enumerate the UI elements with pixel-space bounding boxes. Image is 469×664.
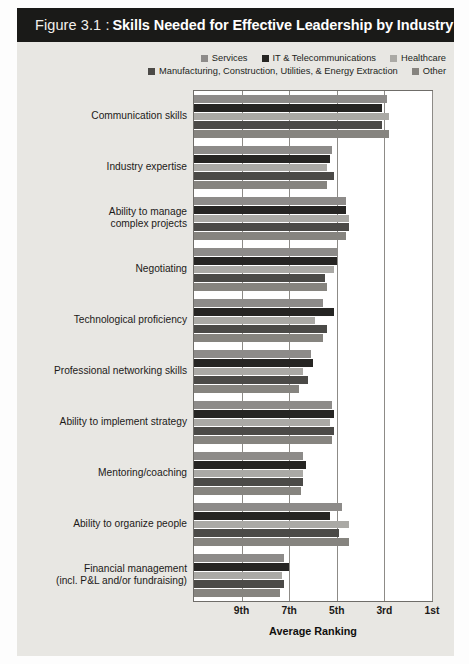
figure-page: Figure 3.1 : Skills Needed for Effective…: [0, 0, 469, 664]
bar: [194, 283, 327, 291]
gridline: [432, 91, 433, 601]
figure-title-bar: Figure 3.1 : Skills Needed for Effective…: [17, 8, 454, 42]
bar: [194, 181, 327, 189]
y-axis-category-label-line: Ability to implement strategy: [17, 415, 187, 428]
bar: [194, 308, 334, 316]
y-axis-category-label: Negotiating: [17, 262, 187, 275]
y-axis-category-label: Professional networking skills: [17, 364, 187, 377]
bar: [194, 197, 346, 205]
x-tick-label: 1st: [425, 605, 440, 616]
y-axis-category-label-line: (incl. P&L and/or fundraising): [17, 575, 187, 588]
x-tick-label: 3rd: [376, 605, 392, 616]
y-axis-category-label-line: Industry expertise: [17, 160, 187, 173]
x-tick-label: 5th: [329, 605, 344, 616]
bar: [194, 589, 280, 597]
bar: [194, 232, 346, 240]
bar: [194, 521, 349, 529]
bar: [194, 580, 284, 588]
bar: [194, 461, 306, 469]
bar: [194, 325, 327, 333]
figure-title: Skills Needed for Effective Leadership b…: [113, 17, 454, 33]
y-axis-category-label: Ability to managecomplex projects: [17, 205, 187, 230]
y-axis-category-label: Ability to implement strategy: [17, 415, 187, 428]
y-axis-category-labels: Communication skillsIndustry expertiseAb…: [17, 90, 187, 602]
bar: [194, 155, 330, 163]
y-axis-category-label: Financial management(incl. P&L and/or fu…: [17, 562, 187, 587]
y-axis-category-label: Industry expertise: [17, 160, 187, 173]
bar: [194, 257, 337, 265]
bar: [194, 206, 346, 214]
bar: [194, 452, 303, 460]
bar: [194, 146, 332, 154]
figure-number: Figure 3.1 :: [35, 17, 110, 33]
bar: [194, 401, 332, 409]
bar: [194, 299, 323, 307]
plot-wrapper: Communication skillsIndustry expertiseAb…: [17, 42, 454, 656]
bar: [194, 563, 289, 571]
bar: [194, 538, 349, 546]
bar: [194, 419, 330, 427]
bar: [194, 121, 382, 129]
y-axis-category-label-line: Professional networking skills: [17, 364, 187, 377]
bar: [194, 274, 325, 282]
bar: [194, 376, 308, 384]
bar: [194, 503, 342, 511]
y-axis-category-label-line: Negotiating: [17, 262, 187, 275]
bar: [194, 470, 303, 478]
bar: [194, 223, 349, 231]
bar: [194, 359, 313, 367]
bar: [194, 572, 282, 580]
bar: [194, 427, 334, 435]
bar: [194, 487, 301, 495]
bar: [194, 104, 382, 112]
bar: [194, 95, 387, 103]
bar-groups: [194, 91, 432, 601]
y-axis-category-label-line: Ability to manage: [17, 205, 187, 218]
y-axis-category-label-line: Communication skills: [17, 109, 187, 122]
chart-panel: ServicesIT & TelecommunicationsHealthcar…: [17, 42, 454, 656]
bar: [194, 334, 323, 342]
bar: [194, 512, 330, 520]
bar: [194, 248, 337, 256]
y-axis-category-label: Ability to organize people: [17, 517, 187, 530]
x-axis-title: Average Ranking: [193, 625, 433, 637]
y-axis-category-label: Communication skills: [17, 109, 187, 122]
x-tick-label: 9th: [234, 605, 249, 616]
bar: [194, 436, 332, 444]
bar: [194, 350, 311, 358]
bar: [194, 266, 334, 274]
bar: [194, 368, 303, 376]
y-axis-category-label: Technological proficiency: [17, 313, 187, 326]
bar: [194, 317, 315, 325]
y-axis-category-label-line: Technological proficiency: [17, 313, 187, 326]
bar: [194, 164, 327, 172]
x-tick-label: 7th: [281, 605, 296, 616]
bar: [194, 113, 389, 121]
bar: [194, 478, 303, 486]
bar: [194, 410, 334, 418]
bar: [194, 529, 339, 537]
bar: [194, 385, 299, 393]
bar: [194, 172, 334, 180]
x-axis-tick-labels: 9th7th5th3rd1st: [193, 605, 433, 623]
y-axis-category-label-line: Financial management: [17, 562, 187, 575]
y-axis-category-label-line: Mentoring/coaching: [17, 466, 187, 479]
plot-area: [193, 90, 433, 602]
bar: [194, 215, 349, 223]
y-axis-category-label-line: complex projects: [17, 218, 187, 231]
bar: [194, 130, 389, 138]
y-axis-category-label-line: Ability to organize people: [17, 517, 187, 530]
bar: [194, 554, 284, 562]
y-axis-category-label: Mentoring/coaching: [17, 466, 187, 479]
